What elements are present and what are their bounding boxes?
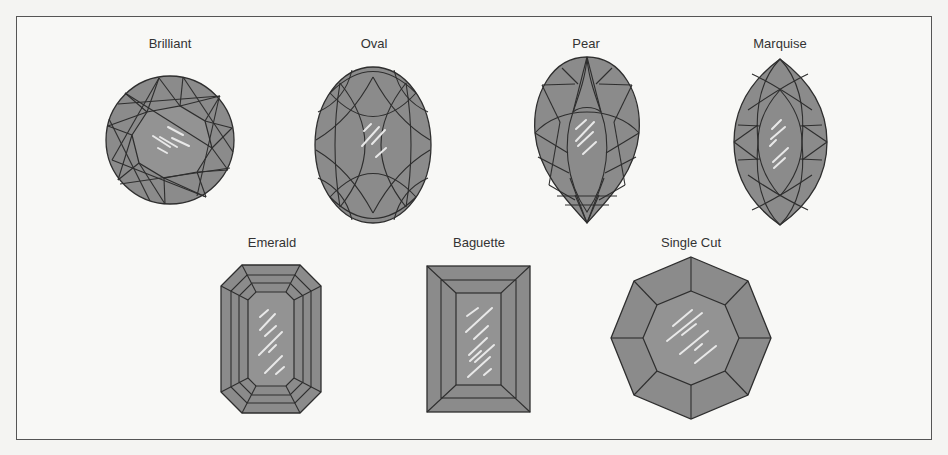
single-cut-diagram xyxy=(611,257,771,419)
gem-cuts-illustration xyxy=(0,0,948,455)
oval-cut-diagram xyxy=(315,67,431,223)
baguette-cut-diagram xyxy=(427,266,530,412)
marquise-cut-diagram xyxy=(734,59,827,225)
brilliant-cut-diagram xyxy=(106,76,234,204)
emerald-cut-diagram xyxy=(221,265,321,413)
pear-cut-diagram xyxy=(535,57,640,223)
